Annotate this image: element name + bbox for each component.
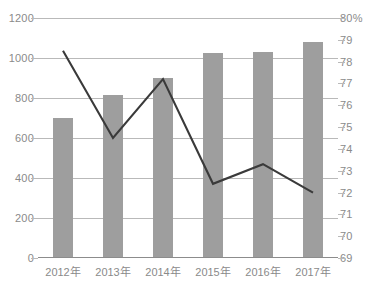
right-axis-tick xyxy=(338,236,345,237)
x-axis-tick-label: 2014年 xyxy=(145,263,180,279)
right-axis-tick xyxy=(338,83,345,84)
chart-container: 020040060080010001200 697071727374757677… xyxy=(0,0,378,293)
x-axis-tick-label: 2012年 xyxy=(45,263,80,279)
right-axis-tick xyxy=(338,105,345,106)
right-axis-tick xyxy=(338,214,345,215)
plot-area xyxy=(38,18,338,258)
right-axis-tick xyxy=(338,40,345,41)
right-axis-tick xyxy=(338,62,345,63)
axis-baseline xyxy=(38,257,338,258)
right-axis-tick xyxy=(338,171,345,172)
x-axis-tick-label: 2013年 xyxy=(95,263,130,279)
x-axis-tick-label: 2017年 xyxy=(295,263,330,279)
left-axis-tick xyxy=(31,138,38,139)
right-axis-tick xyxy=(338,18,345,19)
x-axis-tick-label: 2016年 xyxy=(245,263,280,279)
left-axis-tick xyxy=(31,98,38,99)
right-axis-tick xyxy=(338,127,345,128)
left-axis-tick xyxy=(31,58,38,59)
x-axis-tick-label: 2015年 xyxy=(195,263,230,279)
left-axis-tick xyxy=(31,178,38,179)
right-axis: 697071727374757677787980% xyxy=(340,0,378,293)
left-axis-tick xyxy=(31,258,38,259)
left-axis-tick xyxy=(31,18,38,19)
right-axis-tick xyxy=(338,149,345,150)
left-axis: 020040060080010001200 xyxy=(0,0,34,293)
right-axis-tick xyxy=(338,193,345,194)
line-series xyxy=(38,18,338,258)
right-axis-tick xyxy=(338,258,345,259)
x-axis-labels: 2012年2013年2014年2015年2016年2017年 xyxy=(38,263,338,287)
left-axis-tick xyxy=(31,218,38,219)
